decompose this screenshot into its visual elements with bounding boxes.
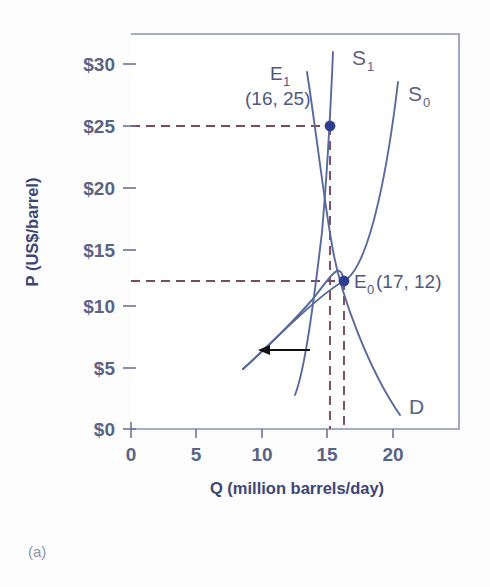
figure-caption: (a) <box>28 543 46 560</box>
equilibrium-marker-e0[interactable] <box>339 276 350 287</box>
point-label-e1-subscript: 1 <box>283 74 290 89</box>
ytick-label-20: $20 <box>83 178 115 199</box>
xtick-label-0: 0 <box>126 444 137 465</box>
xtick-label-10: 10 <box>251 444 272 465</box>
point-label-e1-main: E <box>270 63 283 84</box>
curve-label-s0-subscript: 0 <box>423 95 430 110</box>
point-label-e0-main: E <box>354 271 367 292</box>
ytick-label-15: $15 <box>83 240 115 261</box>
point-label-e1-coords: (16, 25) <box>245 88 310 109</box>
point-label-e0-coords: (17, 12) <box>376 271 441 292</box>
equilibrium-marker-e1[interactable] <box>325 121 336 132</box>
curve-label-s0-main: S <box>408 82 422 105</box>
chart-canvas: $30 $25 $20 $15 $10 $5 $0 0 5 10 15 20 <box>0 0 490 587</box>
ytick-label-30: $30 <box>83 54 115 75</box>
curve-label-s1-main: S <box>352 46 366 69</box>
y-axis-title: P (US$/barrel) <box>23 178 41 287</box>
curve-label-s1-subscript: 1 <box>367 59 374 74</box>
x-axis-title: Q (million barrels/day) <box>210 479 384 497</box>
ytick-label-10: $10 <box>83 296 115 317</box>
xtick-label-20: 20 <box>382 444 403 465</box>
xtick-label-5: 5 <box>191 444 202 465</box>
ytick-label-0: $0 <box>94 419 115 440</box>
ytick-label-25: $25 <box>83 116 115 137</box>
xtick-label-15: 15 <box>316 444 338 465</box>
point-label-e0-subscript: 0 <box>367 282 374 297</box>
supply-demand-figure: $30 $25 $20 $15 $10 $5 $0 0 5 10 15 20 <box>0 0 490 587</box>
curve-label-d: D <box>409 395 424 418</box>
ytick-label-5: $5 <box>94 358 116 379</box>
